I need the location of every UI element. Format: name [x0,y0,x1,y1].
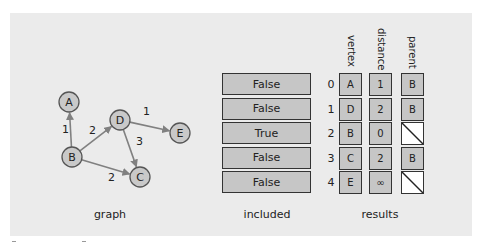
included-cell: False [222,171,311,193]
vertex-cell: E [339,171,362,194]
node-label: D [116,114,124,127]
edge-weight-label: 1 [143,105,150,118]
row-index: 2 [326,127,336,140]
row-index: 1 [326,103,336,116]
edge-weight-label: 1 [62,123,69,136]
vertex-cell: B [339,122,362,145]
node-C: C [130,167,150,187]
distance-cell: ∞ [369,171,392,194]
node-D: D [110,110,130,130]
node-B: B [62,147,82,167]
results-caption: results [350,208,410,221]
node-label: A [65,96,73,109]
edge-weight-label: 2 [89,124,96,137]
tick-mark [82,241,86,242]
vertex-cell: C [339,147,362,170]
edge-weight-label: 2 [108,171,115,184]
row-index: 0 [326,78,336,91]
edge-B-A [70,113,72,147]
row-index: 4 [326,176,336,189]
node-label: C [136,171,144,184]
vertex-header: vertex [346,35,357,67]
node-E: E [170,123,190,143]
distance-cell: 0 [369,122,392,145]
parent-cell: B [401,147,424,170]
included-caption: included [232,208,302,221]
tick-mark [12,241,16,242]
node-label: E [177,127,184,140]
parent-cell [401,171,424,194]
distance-header: distance [376,28,387,70]
included-cell: True [222,122,311,144]
distance-cell: 1 [369,73,392,96]
node-A: A [59,92,79,112]
distance-cell: 2 [369,147,392,170]
edge-B-C [82,160,130,174]
edge-weight-label: 3 [136,135,143,148]
included-cell: False [222,73,311,95]
edge-D-C [123,129,136,166]
included-cell: False [222,98,311,120]
null-slash-icon [402,172,423,193]
distance-cell: 2 [369,98,392,121]
parent-header: parent [407,36,418,69]
row-index: 3 [326,152,336,165]
parent-cell [401,122,424,145]
vertex-cell: A [339,73,362,96]
graph-caption: graph [80,208,140,221]
parent-cell: B [401,73,424,96]
parent-cell: B [401,98,424,121]
node-label: B [68,151,76,164]
edge-D-E [130,122,169,131]
null-slash-icon [402,123,423,144]
included-cell: False [222,147,311,169]
vertex-cell: D [339,98,362,121]
